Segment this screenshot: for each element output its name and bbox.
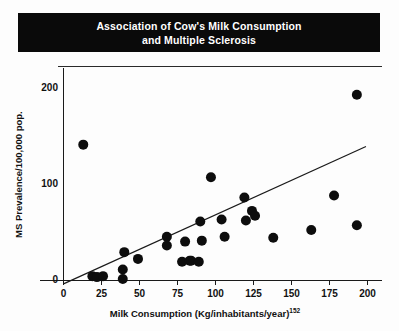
data-point <box>352 90 362 100</box>
y-axis-tick-labels: 0 100 200 <box>41 82 58 285</box>
data-point <box>119 247 129 257</box>
x-tick-label: 150 <box>283 288 300 299</box>
data-point <box>195 216 205 226</box>
y-tick-label: 200 <box>41 82 58 93</box>
x-tick-label: 25 <box>96 288 108 299</box>
y-tick-label: 0 <box>52 274 58 285</box>
data-point <box>220 232 230 242</box>
data-point <box>239 192 249 202</box>
data-points-group <box>78 90 362 284</box>
x-tick-label: 175 <box>321 288 338 299</box>
data-point <box>352 220 362 230</box>
data-point <box>118 264 128 274</box>
data-point <box>133 254 143 264</box>
x-axis-title-superscript: 152 <box>289 307 300 314</box>
data-point <box>241 215 251 225</box>
x-axis-title: Milk Consumption (Kg/inhabitants/year)15… <box>110 307 301 319</box>
x-axis-title-main: Milk Consumption (Kg/inhabitants/year) <box>110 308 289 319</box>
data-point <box>329 191 339 201</box>
x-tick-label: 75 <box>172 288 184 299</box>
x-tick-label: 50 <box>134 288 146 299</box>
data-point <box>250 211 260 221</box>
x-tick-label: 0 <box>61 288 67 299</box>
data-point <box>194 257 204 267</box>
x-axis-tick-labels: 0 25 50 75 100 125 150 175 200 <box>61 288 377 299</box>
data-point <box>78 140 88 150</box>
figure-container: Association of Cow's Milk Consumption an… <box>0 0 399 331</box>
data-point <box>98 271 108 281</box>
data-point <box>268 233 278 243</box>
scatter-plot-svg: 0 25 50 75 100 125 150 175 200 0 100 200… <box>0 0 399 331</box>
data-point <box>217 215 227 225</box>
data-point <box>306 225 316 235</box>
x-tick-label: 125 <box>245 288 262 299</box>
y-tick-label: 100 <box>41 178 58 189</box>
x-tick-label: 100 <box>207 288 224 299</box>
data-point <box>206 172 216 182</box>
y-axis-title: MS Prevalence/100,000 pop. <box>13 111 24 238</box>
scatter-plot: 0 25 50 75 100 125 150 175 200 0 100 200… <box>0 0 399 331</box>
data-point <box>197 236 207 246</box>
data-point <box>162 232 172 242</box>
x-tick-label: 200 <box>359 288 376 299</box>
data-point <box>162 240 172 250</box>
data-point <box>118 274 128 284</box>
trend-line <box>64 147 366 284</box>
data-point <box>180 237 190 247</box>
